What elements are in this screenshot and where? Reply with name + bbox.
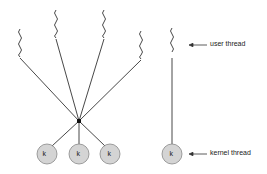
kernel-thread-label: kernel thread bbox=[210, 149, 251, 156]
kernel-label-k: k bbox=[77, 150, 81, 157]
kernel-label-k: k bbox=[108, 150, 112, 157]
user-thread-squiggle bbox=[19, 29, 22, 57]
user-thread-squiggle bbox=[103, 10, 106, 38]
user-thread-squiggle-right bbox=[171, 28, 174, 52]
junction-point bbox=[77, 119, 81, 123]
user-thread-squiggle bbox=[140, 31, 143, 59]
kernel-label-k: k bbox=[170, 150, 174, 157]
kernel-label-k: k bbox=[43, 150, 47, 157]
user-thread-squiggle bbox=[55, 10, 58, 38]
user-threads-left bbox=[19, 10, 143, 59]
kernel-thread-circle bbox=[37, 144, 57, 164]
mapping-lines bbox=[20, 39, 172, 146]
user-thread-label: user thread bbox=[210, 40, 245, 47]
label-arrows bbox=[189, 43, 207, 155]
threading-diagram bbox=[0, 0, 267, 174]
